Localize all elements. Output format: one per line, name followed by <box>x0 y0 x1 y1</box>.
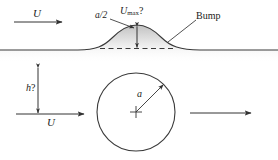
flow-over-bump-diagram: U a/2 Umax? Bump h? U a <box>0 0 278 160</box>
diagram-canvas <box>0 0 278 160</box>
bump-leader <box>168 20 196 42</box>
wall-shading <box>0 25 278 63</box>
label-cylinder-radius-a: a <box>137 89 142 99</box>
umax-subscript: max <box>127 9 139 16</box>
label-bump: Bump <box>196 11 220 21</box>
h-query: ? <box>31 82 35 93</box>
label-height-h: h? <box>26 83 35 93</box>
label-freestream-velocity-top: U <box>33 8 41 19</box>
a-half-leader <box>110 19 134 28</box>
label-max-velocity: Umax? <box>120 6 143 17</box>
label-bump-height-a-over-2: a/2 <box>95 11 107 21</box>
umax-query: ? <box>139 5 143 16</box>
label-freestream-velocity-bottom: U <box>47 117 55 128</box>
